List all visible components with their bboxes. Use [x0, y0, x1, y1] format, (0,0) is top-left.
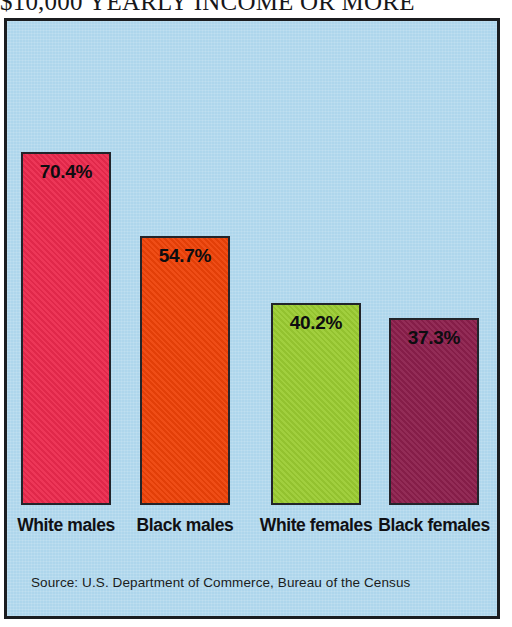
bar-value-black-males: 54.7% [142, 245, 228, 267]
chart-panel: 70.4% White males 54.7% Black males 40.2… [4, 18, 500, 619]
bar-value-white-males: 70.4% [23, 161, 109, 183]
page-title: $10,000 YEARLY INCOME OR MORE [0, 0, 512, 16]
bar-value-white-females: 40.2% [273, 312, 359, 334]
bar-black-females[interactable]: 37.3% [389, 318, 479, 505]
bar-value-black-females: 37.3% [391, 327, 477, 349]
bar-group-black-females: 37.3% Black females [389, 18, 479, 616]
bar-group-white-males: 70.4% White males [21, 18, 111, 616]
bar-white-males[interactable]: 70.4% [21, 152, 111, 505]
bar-black-males[interactable]: 54.7% [140, 236, 230, 505]
bar-label-black-females: Black females [378, 515, 490, 536]
bar-group-white-females: 40.2% White females [271, 18, 361, 616]
bar-label-white-females: White females [260, 515, 372, 536]
bar-white-females[interactable]: 40.2% [271, 303, 361, 505]
bar-label-white-males: White males [17, 515, 115, 536]
bar-chart-plot-area: 70.4% White males 54.7% Black males 40.2… [7, 21, 497, 616]
bar-texture [142, 238, 228, 503]
title-band: $10,000 YEARLY INCOME OR MORE [0, 0, 512, 18]
bar-texture [23, 154, 109, 503]
bar-group-black-males: 54.7% Black males [140, 18, 230, 616]
bar-texture [273, 305, 359, 503]
bar-label-black-males: Black males [137, 515, 234, 536]
source-note: Source: U.S. Department of Commerce, Bur… [31, 575, 410, 590]
